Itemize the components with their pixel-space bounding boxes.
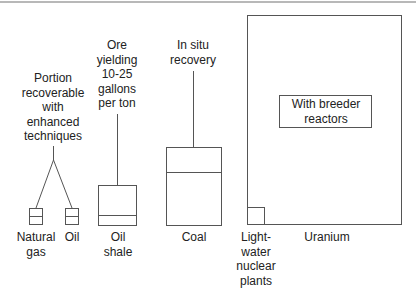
label-line: gallons	[87, 82, 147, 97]
uranium-label: Uranium	[297, 230, 357, 245]
label-line: Ore	[87, 38, 147, 53]
oil-shale-box	[99, 186, 137, 226]
label-line: Portion	[18, 71, 88, 86]
label-line: Oil	[93, 230, 143, 245]
ore-yield-label: Ore yielding 10-25 gallons per ton	[87, 38, 147, 111]
label-line: shale	[93, 245, 143, 260]
coal-label: Coal	[174, 230, 214, 245]
label-line: Oil	[57, 230, 87, 245]
fork-left-branch	[36, 160, 54, 208]
label-line: Uranium	[297, 230, 357, 245]
light-water-box	[248, 208, 265, 225]
oil-label: Oil	[57, 230, 87, 245]
label-line: reactors	[280, 112, 372, 127]
label-line: enhanced	[18, 115, 88, 130]
label-line: per ton	[87, 96, 147, 111]
label-line: plants	[231, 274, 281, 289]
label-line: In situ	[163, 38, 223, 53]
label-line: With breeder	[280, 97, 372, 112]
label-line: nuclear	[231, 259, 281, 274]
light-water-label: Light- water nuclear plants	[231, 230, 281, 288]
label-line: 10-25	[87, 67, 147, 82]
label-line: recoverable	[18, 86, 88, 101]
label-line: Coal	[174, 230, 214, 245]
oil-shale-label: Oil shale	[93, 230, 143, 259]
label-line: recovery	[163, 53, 223, 68]
label-line: gas	[11, 245, 61, 260]
fork-right-branch	[54, 160, 73, 208]
breeder-reactors-label: With breeder reactors	[280, 97, 372, 126]
label-line: techniques	[18, 129, 88, 144]
label-line: yielding	[87, 53, 147, 68]
label-line: water	[231, 245, 281, 260]
label-line: Natural	[11, 230, 61, 245]
natural-gas-label: Natural gas	[11, 230, 61, 259]
enhanced-techniques-label: Portion recoverable with enhanced techni…	[18, 71, 88, 144]
label-line: Light-	[231, 230, 281, 245]
label-line: with	[18, 100, 88, 115]
in-situ-label: In situ recovery	[163, 38, 223, 67]
coal-box	[167, 148, 222, 226]
